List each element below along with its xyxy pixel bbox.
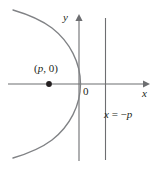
directrix-equation-label: x = −p bbox=[104, 109, 132, 120]
parabola-figure: y x 0 (p, 0) x = −p bbox=[0, 0, 158, 175]
figure-canvas bbox=[0, 0, 158, 175]
origin-label: 0 bbox=[83, 86, 89, 97]
x-axis-label: x bbox=[142, 88, 147, 99]
parabola-lower-branch bbox=[13, 84, 81, 158]
directrix-label-p: p bbox=[127, 108, 133, 120]
focus-point-label: (p, 0) bbox=[34, 63, 58, 74]
directrix-label-equals: = − bbox=[109, 108, 127, 120]
y-axis bbox=[75, 14, 82, 161]
y-axis-label: y bbox=[63, 12, 68, 23]
focus-point-marker bbox=[46, 81, 52, 87]
focus-label-remainder: , 0) bbox=[43, 62, 58, 74]
y-axis-arrowhead bbox=[75, 14, 82, 21]
